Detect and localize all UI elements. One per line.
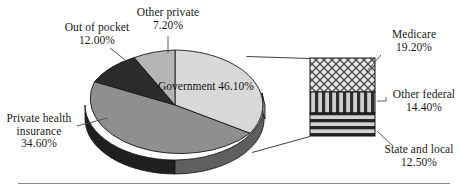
label-medicare: Medicare 19.20%: [382, 28, 446, 53]
label-government-name: Government: [158, 80, 215, 92]
bar-segment-medicare: [310, 58, 375, 92]
label-state-and-local-name: State and local: [384, 143, 453, 155]
label-other-federal-value: 14.40%: [388, 101, 460, 114]
bar-segment-other-federal: [310, 92, 375, 113]
label-private-health-insurance-value: 34.60%: [2, 137, 76, 150]
label-private-health-insurance-name2: insurance: [2, 125, 76, 138]
footer-rule: [18, 183, 450, 184]
label-other-private-name: Other private: [137, 6, 199, 18]
label-private-health-insurance-name: Private health: [7, 112, 72, 124]
label-other-federal-name: Other federal: [393, 88, 455, 100]
label-out-of-pocket-name: Out of pocket: [65, 21, 130, 33]
bar-segment-state-and-local: [310, 113, 375, 136]
label-medicare-value: 19.20%: [382, 41, 446, 54]
pie-slices: [90, 50, 263, 154]
government-breakout-bar: [310, 58, 375, 136]
label-medicare-name: Medicare: [392, 28, 436, 40]
label-private-health-insurance: Private health insurance 34.60%: [2, 112, 76, 150]
leader-out-of-pocket: [110, 48, 129, 63]
label-government-value: 46.10%: [218, 80, 253, 92]
label-government: Government 46.10%: [158, 80, 244, 93]
label-state-and-local: State and local 12.50%: [378, 143, 460, 168]
chart-figure: Other private 7.20% Out of pocket 12.00%…: [0, 0, 461, 191]
leader-other-federal: [377, 97, 386, 101]
label-other-federal: Other federal 14.40%: [388, 88, 460, 113]
label-state-and-local-value: 12.50%: [378, 156, 460, 169]
label-out-of-pocket-value: 12.00%: [50, 34, 144, 47]
label-out-of-pocket: Out of pocket 12.00%: [50, 21, 144, 46]
